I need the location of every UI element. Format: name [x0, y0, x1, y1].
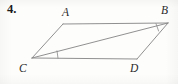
diagonal-CB: [32, 23, 168, 58]
edge-AB: [63, 23, 168, 24]
angle-B-tick-icon: [156, 24, 159, 31]
edge-BD: [137, 23, 168, 59]
angle-C-tick-icon: [57, 51, 58, 58]
vertex-label-c: C: [19, 62, 27, 74]
vertex-label-b: B: [161, 4, 168, 16]
edge-DC: [32, 58, 137, 59]
edge-CA: [32, 24, 63, 58]
figure-screenshot: 4. A B C D: [0, 0, 178, 84]
vertex-label-a: A: [62, 6, 69, 18]
problem-number: 4.: [7, 2, 16, 16]
vertex-label-d: D: [130, 62, 138, 74]
